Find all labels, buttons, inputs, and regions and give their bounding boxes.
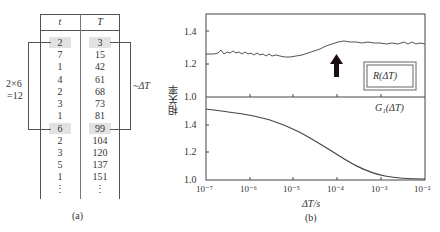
upper-ytick: 1.0 <box>184 91 197 102</box>
correlation-plot <box>0 0 440 232</box>
xtick: 10⁻² <box>414 184 430 194</box>
legend-R: R(ΔT) <box>373 70 397 81</box>
lower-ytick: 1.2 <box>184 146 197 157</box>
lower-ytick: 1.0 <box>184 174 197 185</box>
arrow-marker <box>330 54 343 77</box>
xtick: 10⁻⁵ <box>283 184 300 194</box>
legend-G1: G₁(ΔT) <box>375 102 404 113</box>
xtick: 10⁻⁴ <box>327 184 344 194</box>
series-R <box>206 41 425 57</box>
upper-ytick: 1.4 <box>184 26 197 37</box>
series-G1 <box>206 109 425 179</box>
x-axis-label: ΔT/s <box>302 198 320 209</box>
panel-b-caption: (b) <box>305 212 317 223</box>
xtick: 10⁻⁶ <box>240 184 257 194</box>
y-axis-label: 相关率 <box>168 85 179 115</box>
lower-ytick: 1.4 <box>184 119 197 130</box>
upper-ytick: 1.2 <box>184 58 197 69</box>
xtick: 10⁻⁷ <box>196 184 213 194</box>
xtick: 10⁻³ <box>371 184 387 194</box>
